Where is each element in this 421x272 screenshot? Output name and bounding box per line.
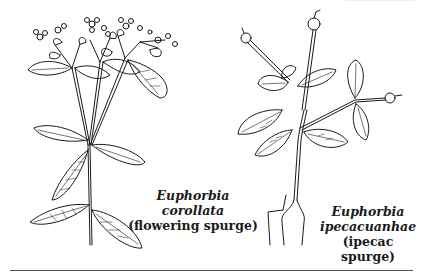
caption-flowering-spurge: Euphorbia corollata (flowering spurge) [128,188,258,233]
caption-ipecac-spurge: Euphorbia ipecacuanhae (ipecac spurge) [318,204,418,264]
scientific-name: Euphorbia corollata [128,188,258,218]
common-name: (ipecac spurge) [318,234,418,264]
scientific-name-genus: Euphorbia [318,204,418,219]
common-name: (flowering spurge) [128,218,258,233]
bottom-divider [10,270,413,271]
scientific-name-species: ipecacuanhae [318,219,418,234]
botanical-illustration: Euphorbia corollata (flowering spurge) E… [0,0,421,272]
